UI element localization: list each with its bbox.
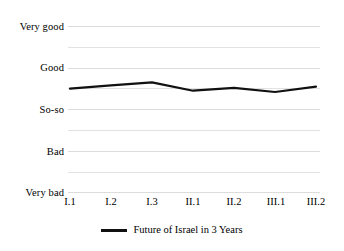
x-axis-tick-label: II.1	[186, 196, 201, 208]
y-axis-labels: Very good Good So-so Bad Very bad	[0, 0, 64, 251]
y-axis-tick-label: Good	[0, 62, 64, 73]
x-axis-tick-label: III.1	[267, 196, 285, 208]
series-layer	[68, 26, 320, 193]
legend-line-marker-icon	[101, 229, 127, 232]
y-axis-tick-label: Very good	[0, 21, 64, 32]
series-line-future-of-israel	[70, 82, 316, 92]
x-axis-tick-label: III.2	[307, 196, 325, 208]
y-axis-tick-label: Bad	[0, 146, 64, 157]
legend-entry-label: Future of Israel in 3 Years	[133, 224, 242, 236]
x-axis-tick-label: I.2	[105, 196, 116, 208]
chart-container: Very good Good So-so Bad Very bad I.1 I.…	[0, 0, 344, 251]
y-axis-tick-label: So-so	[0, 104, 64, 115]
y-axis-tick-label: Very bad	[0, 187, 64, 198]
chart-legend: Future of Israel in 3 Years	[0, 224, 344, 236]
x-axis-tick-label: I.1	[64, 196, 75, 208]
x-axis-labels: I.1 I.2 I.3 II.1 II.2 III.1 III.2	[68, 196, 320, 212]
x-axis-tick-label: II.2	[227, 196, 242, 208]
x-axis-tick-label: I.3	[146, 196, 157, 208]
